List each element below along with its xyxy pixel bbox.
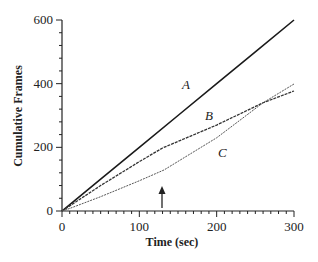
x-tick-label: 100 — [130, 219, 150, 234]
chart: 0200400600 0100200300 Time (sec) Cumulat… — [0, 0, 318, 262]
y-tick-label: 0 — [47, 203, 54, 218]
y-tick-labels: 0200400600 — [34, 12, 54, 218]
series-label-c: C — [218, 145, 227, 160]
y-axis-label: Cumulative Frames — [11, 65, 25, 167]
x-tick-label: 200 — [207, 219, 227, 234]
series-line-a — [62, 20, 294, 211]
series-label-a: A — [181, 77, 190, 92]
x-tick-label: 0 — [59, 219, 66, 234]
x-tick-labels: 0100200300 — [59, 219, 304, 234]
x-tick-label: 300 — [284, 219, 304, 234]
y-tick-label: 400 — [34, 76, 54, 91]
arrow-annotation — [159, 186, 166, 208]
series-lines — [62, 20, 294, 211]
x-ticks — [62, 211, 294, 217]
series-line-b — [62, 91, 294, 211]
series-line-c — [62, 84, 294, 211]
x-axis-label: Time (sec) — [146, 235, 199, 249]
series-label-b: B — [205, 108, 213, 123]
y-ticks — [56, 20, 62, 211]
y-tick-label: 600 — [34, 12, 54, 27]
y-tick-label: 200 — [34, 139, 54, 154]
